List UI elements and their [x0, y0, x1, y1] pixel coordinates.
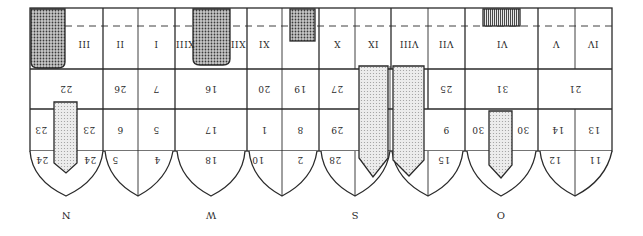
row2-number: 16 [199, 84, 223, 93]
row2-number: 19 [288, 84, 312, 93]
roman-label: VI [490, 39, 514, 48]
row2-number: 20 [252, 84, 276, 93]
row4-number: 18 [199, 155, 223, 164]
striped-block [483, 9, 520, 26]
roman-label: V [544, 39, 568, 48]
light-pillar-1 [54, 102, 77, 173]
roman-label: X [325, 39, 349, 48]
row3-number: 9 [434, 125, 458, 134]
row4-number: 28 [323, 155, 347, 164]
row3-number: 30 [511, 125, 535, 134]
direction-label: S [347, 210, 363, 220]
roman-label: I [144, 39, 168, 48]
dark-block-3 [290, 9, 315, 41]
roman-label: VII [434, 39, 458, 48]
row3-number: 13 [582, 125, 606, 134]
row2-number: 21 [563, 84, 587, 93]
row3-number: 23 [77, 125, 101, 134]
light-pillar-3 [393, 66, 424, 176]
dark-block-1 [31, 9, 65, 68]
row3-number: 17 [199, 125, 223, 134]
row3-number: 14 [546, 125, 570, 134]
row4-number: 2 [288, 155, 312, 164]
roman-label: IV [581, 39, 605, 48]
row3-number: 5 [144, 125, 168, 134]
row2-number: 31 [490, 84, 514, 93]
row2-number: 27 [325, 84, 349, 93]
row4-number: 15 [432, 155, 456, 164]
roman-label: VIII [397, 39, 421, 48]
row2-number: 7 [144, 84, 168, 93]
dark-block-2 [193, 9, 230, 65]
row4-number: 12 [543, 155, 567, 164]
row3-number: 8 [288, 125, 312, 134]
roman-label: XII [226, 39, 250, 48]
row3-number: 6 [108, 125, 132, 134]
roman-label: XI [252, 39, 276, 48]
row4-number: 24 [78, 155, 102, 164]
direction-label: O [493, 210, 509, 220]
row3-number: 30 [466, 125, 490, 134]
direction-label: N [58, 210, 74, 220]
roman-label: IX [361, 39, 385, 48]
floor-plan-diagram [0, 0, 643, 236]
row2-number: 25 [434, 84, 458, 93]
direction-label: W [203, 210, 219, 220]
row3-number: 1 [252, 125, 276, 134]
light-pillar-2 [359, 66, 388, 177]
roman-label: XIII [173, 39, 197, 48]
row3-number: 23 [29, 125, 53, 134]
light-pillar-4 [489, 111, 512, 178]
row2-number: 26 [108, 84, 132, 93]
row4-number: 11 [583, 155, 607, 164]
row3-number: 29 [325, 125, 349, 134]
roman-label: II [108, 39, 132, 48]
row4-number: 10 [246, 155, 270, 164]
roman-label: III [72, 39, 96, 48]
row4-number: 5 [103, 155, 127, 164]
row4-number: 4 [145, 155, 169, 164]
row4-number: 24 [30, 155, 54, 164]
row2-number: 22 [54, 84, 78, 93]
